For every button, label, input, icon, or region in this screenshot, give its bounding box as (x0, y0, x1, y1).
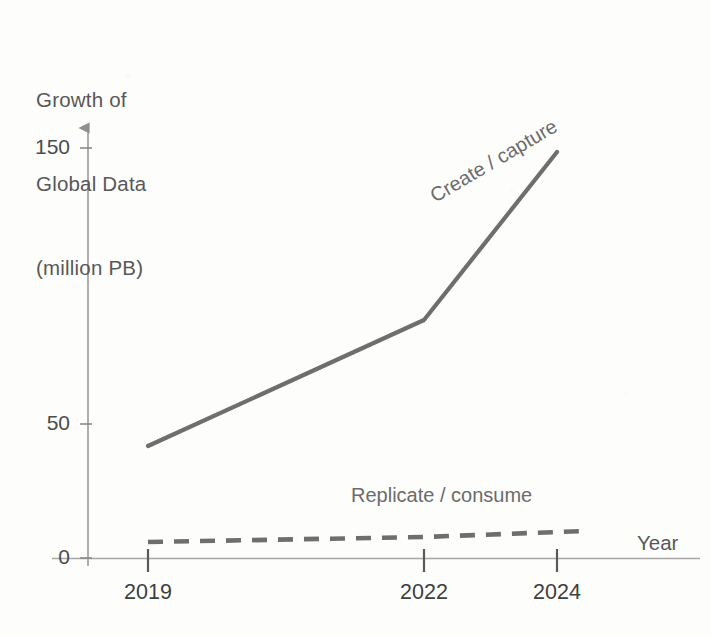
x-tick-label-2019: 2019 (103, 580, 193, 605)
y-axis-title-line-1: Growth of (36, 86, 276, 114)
series-label-replicate-consume: Replicate / consume (351, 484, 532, 507)
y-axis-title: Growth of Global Data (million PB) (36, 30, 276, 338)
line-chart: Growth of Global Data (million PB) Year … (0, 0, 711, 636)
y-tick-label-50: 50 (8, 411, 70, 435)
x-axis-title: Year (637, 531, 678, 555)
y-axis-title-line-3: (million PB) (36, 254, 276, 282)
x-tick-label-2024: 2024 (512, 580, 602, 605)
y-tick-label-150: 150 (8, 135, 70, 159)
series-line-replicate-consume (148, 531, 585, 542)
x-tick-label-2022: 2022 (379, 580, 469, 605)
y-tick-label-0: 0 (8, 545, 70, 569)
y-axis-title-line-2: Global Data (36, 170, 276, 198)
